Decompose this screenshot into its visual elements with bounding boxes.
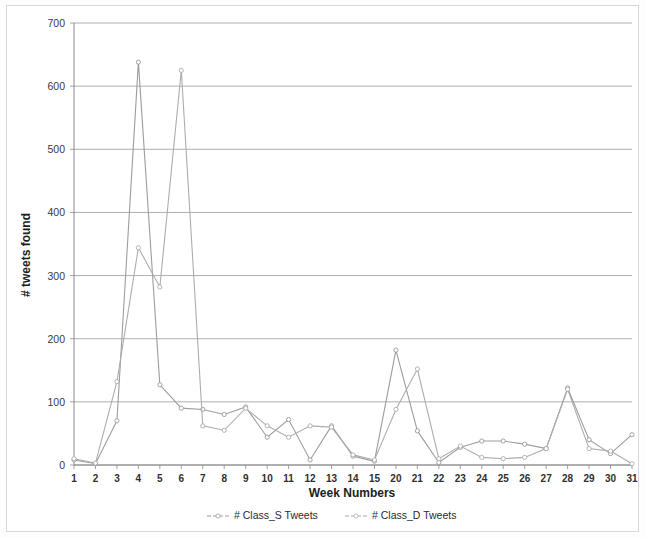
data-point-class-d-w12: [308, 424, 312, 428]
data-point-class-d-w15: [372, 458, 376, 462]
data-point-class-d-w13: [329, 425, 333, 429]
data-point-class-d-w10: [265, 424, 269, 428]
x-tick-label-22: 22: [433, 473, 445, 484]
data-point-class-d-w24: [480, 455, 484, 459]
data-point-class-s-w12: [308, 458, 312, 462]
data-point-class-s-w25: [501, 439, 505, 443]
data-point-class-s-w5: [158, 383, 162, 387]
data-point-class-d-w26: [523, 455, 527, 459]
x-tick-label-21: 21: [412, 473, 424, 484]
legend-label-1: # Class_D Tweets: [372, 509, 456, 521]
x-tick-label-29: 29: [584, 473, 596, 484]
y-tick-label-700: 700: [47, 17, 65, 29]
data-point-class-d-w28: [566, 387, 570, 391]
data-point-class-d-w3: [115, 380, 119, 384]
x-tick-label-28: 28: [562, 473, 574, 484]
x-tick-label-26: 26: [519, 473, 531, 484]
data-point-class-d-w20: [394, 407, 398, 411]
x-tick-label-24: 24: [476, 473, 488, 484]
x-tick-label-25: 25: [498, 473, 510, 484]
x-tick-label-30: 30: [605, 473, 617, 484]
data-point-class-d-w25: [501, 457, 505, 461]
data-point-class-s-w21: [415, 429, 419, 433]
series-line-class-d: [74, 70, 632, 463]
x-axis-tick-labels: 1234567891011121314152021222324252627282…: [71, 473, 638, 484]
chart-legend: # Class_S Tweets# Class_D Tweets: [207, 509, 456, 521]
data-point-class-d-w23: [458, 444, 462, 448]
data-point-class-d-w14: [351, 453, 355, 457]
data-point-class-s-w29: [587, 438, 591, 442]
data-point-class-s-w20: [394, 348, 398, 352]
data-point-class-s-w26: [523, 442, 527, 446]
x-tick-label-4: 4: [136, 473, 142, 484]
x-tick-label-27: 27: [541, 473, 553, 484]
x-tick-label-5: 5: [157, 473, 163, 484]
data-point-class-s-w3: [115, 419, 119, 423]
data-point-class-s-w11: [287, 417, 291, 421]
x-tick-label-6: 6: [179, 473, 185, 484]
data-point-class-s-w6: [179, 406, 183, 410]
data-point-class-d-w31: [630, 462, 634, 466]
data-point-class-s-w4: [136, 60, 140, 64]
chart-figure: 0100200300400500600700 12345678910111213…: [0, 0, 646, 538]
data-point-class-d-w27: [544, 446, 548, 450]
x-tick-label-8: 8: [221, 473, 227, 484]
data-point-class-d-w11: [287, 435, 291, 439]
data-point-class-d-w9: [244, 406, 248, 410]
x-tick-label-13: 13: [326, 473, 338, 484]
series-line-class-s: [74, 62, 632, 464]
data-point-class-s-w24: [480, 439, 484, 443]
x-tick-label-14: 14: [347, 473, 359, 484]
legend-label-0: # Class_S Tweets: [234, 509, 318, 521]
data-point-class-d-w22: [437, 457, 441, 461]
x-axis-title: Week Numbers: [309, 486, 396, 500]
x-tick-label-20: 20: [390, 473, 402, 484]
y-tick-label-500: 500: [47, 143, 65, 155]
data-point-class-d-w4: [136, 246, 140, 250]
data-point-class-d-w29: [587, 446, 591, 450]
y-tick-label-100: 100: [47, 396, 65, 408]
data-series-group: [72, 60, 634, 466]
data-point-class-d-w7: [201, 424, 205, 428]
y-axis-title: # tweets found: [19, 213, 33, 297]
y-axis-tick-labels: 0100200300400500600700: [47, 17, 65, 471]
y-tick-label-300: 300: [47, 270, 65, 282]
data-point-class-d-w1: [72, 457, 76, 461]
data-point-class-d-w2: [93, 461, 97, 465]
x-tick-label-12: 12: [305, 473, 317, 484]
y-tick-label-0: 0: [59, 459, 65, 471]
x-tick-label-3: 3: [114, 473, 120, 484]
x-tick-label-9: 9: [243, 473, 249, 484]
x-tick-label-11: 11: [283, 473, 294, 484]
x-tick-label-15: 15: [369, 473, 381, 484]
x-tick-label-10: 10: [262, 473, 274, 484]
y-tick-label-400: 400: [47, 206, 65, 218]
data-point-class-d-w21: [415, 367, 419, 371]
data-point-class-s-w8: [222, 412, 226, 416]
x-tick-label-23: 23: [455, 473, 467, 484]
x-tick-label-2: 2: [93, 473, 99, 484]
data-point-class-d-w8: [222, 428, 226, 432]
legend-marker-0: [216, 514, 220, 518]
y-tick-label-200: 200: [47, 333, 65, 345]
x-tick-label-7: 7: [200, 473, 206, 484]
data-point-class-d-w6: [179, 68, 183, 72]
data-point-class-s-w31: [630, 433, 634, 437]
line-chart: 0100200300400500600700 12345678910111213…: [0, 0, 646, 538]
data-point-class-d-w30: [608, 449, 612, 453]
x-tick-label-1: 1: [71, 473, 77, 484]
data-point-class-s-w10: [265, 435, 269, 439]
legend-marker-1: [354, 514, 358, 518]
gridlines-group: [74, 23, 632, 465]
y-tick-label-600: 600: [47, 80, 65, 92]
data-point-class-d-w5: [158, 285, 162, 289]
x-tick-label-31: 31: [626, 473, 638, 484]
